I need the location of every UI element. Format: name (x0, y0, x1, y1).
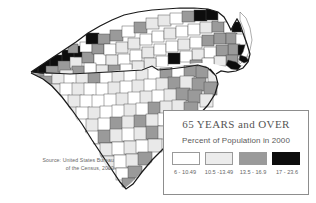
legend-range-2: 10.5 -13.49 (202, 169, 236, 175)
legend-swatch-row (172, 152, 300, 165)
legend-subtitle: Percent of Population in 2000 (164, 136, 308, 145)
legend-range-3: 13.5 - 16.9 (236, 169, 270, 175)
legend-range-row: 6 - 10.49 10.5 -13.49 13.5 - 16.9 17 - 2… (168, 169, 304, 175)
legend-title: 65 YEARS and OVER (164, 118, 308, 130)
map-legend: 65 YEARS and OVER Percent of Population … (163, 110, 309, 195)
legend-swatch-2 (205, 152, 233, 165)
legend-range-1: 6 - 10.49 (168, 169, 202, 175)
source-note: Source: United States Bureau of the Cens… (6, 157, 114, 173)
source-line-2: of the Census, 2000 (6, 165, 114, 173)
nc-counties (28, 9, 248, 78)
legend-swatch-3 (239, 152, 267, 165)
legend-swatch-1 (172, 152, 200, 165)
map-figure: Source: United States Bureau of the Cens… (0, 0, 316, 203)
source-line-1: Source: United States Bureau (6, 157, 114, 165)
legend-swatch-4 (272, 152, 300, 165)
legend-range-4: 17 - 23.6 (270, 169, 304, 175)
